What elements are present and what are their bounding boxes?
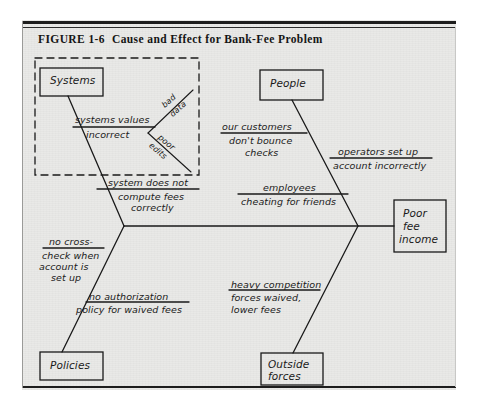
cause-no-authorization-line2: policy for waived fees bbox=[76, 304, 182, 316]
effect-label-line1: Poor bbox=[403, 207, 427, 220]
cause-heavy-competition-line3: lower fees bbox=[231, 304, 281, 316]
cause-compute-fees-line2: compute fees bbox=[118, 191, 184, 203]
cause-operators-line1: operators set up bbox=[338, 146, 418, 158]
effect-label-line3: income bbox=[399, 233, 438, 246]
category-label-people: People bbox=[270, 77, 306, 90]
cause-no-cross-check-line3: account is bbox=[39, 261, 88, 273]
cause-no-cross-check-line1: no cross- bbox=[49, 236, 93, 248]
cause-employees-line2: cheating for friends bbox=[241, 196, 336, 208]
cause-heavy-competition-line2: forces waived, bbox=[231, 292, 301, 304]
cause-systems-values-line2: incorrect bbox=[86, 129, 129, 141]
cause-no-cross-check-line4: set up bbox=[51, 272, 81, 284]
category-label-policies: Policies bbox=[50, 359, 90, 372]
cause-no-authorization-line1: no authorization bbox=[89, 291, 168, 303]
cause-compute-fees-line1: system does not bbox=[108, 177, 188, 189]
cause-our-customers-line3: checks bbox=[245, 147, 278, 159]
effect-label-line2: fee bbox=[403, 220, 420, 233]
cause-our-customers-line2: don't bounce bbox=[229, 135, 292, 147]
cause-operators-line2: account incorrectly bbox=[333, 160, 426, 172]
figure-page: FIGURE 1-6Cause and Effect for Bank-Fee … bbox=[0, 0, 480, 416]
category-label-outside-forces-line1: Outside bbox=[268, 358, 309, 371]
cause-no-cross-check-line2: check when bbox=[42, 250, 100, 262]
category-label-systems: Systems bbox=[50, 74, 95, 87]
cause-employees-line1: employees bbox=[263, 182, 316, 194]
cause-compute-fees-line3: correctly bbox=[131, 202, 174, 214]
cause-systems-values-line1: systems values bbox=[75, 114, 150, 126]
cause-our-customers-line1: our customers bbox=[222, 121, 292, 133]
cause-heavy-competition-line1: heavy competition bbox=[231, 279, 321, 291]
category-label-outside-forces-line2: forces bbox=[268, 370, 301, 383]
